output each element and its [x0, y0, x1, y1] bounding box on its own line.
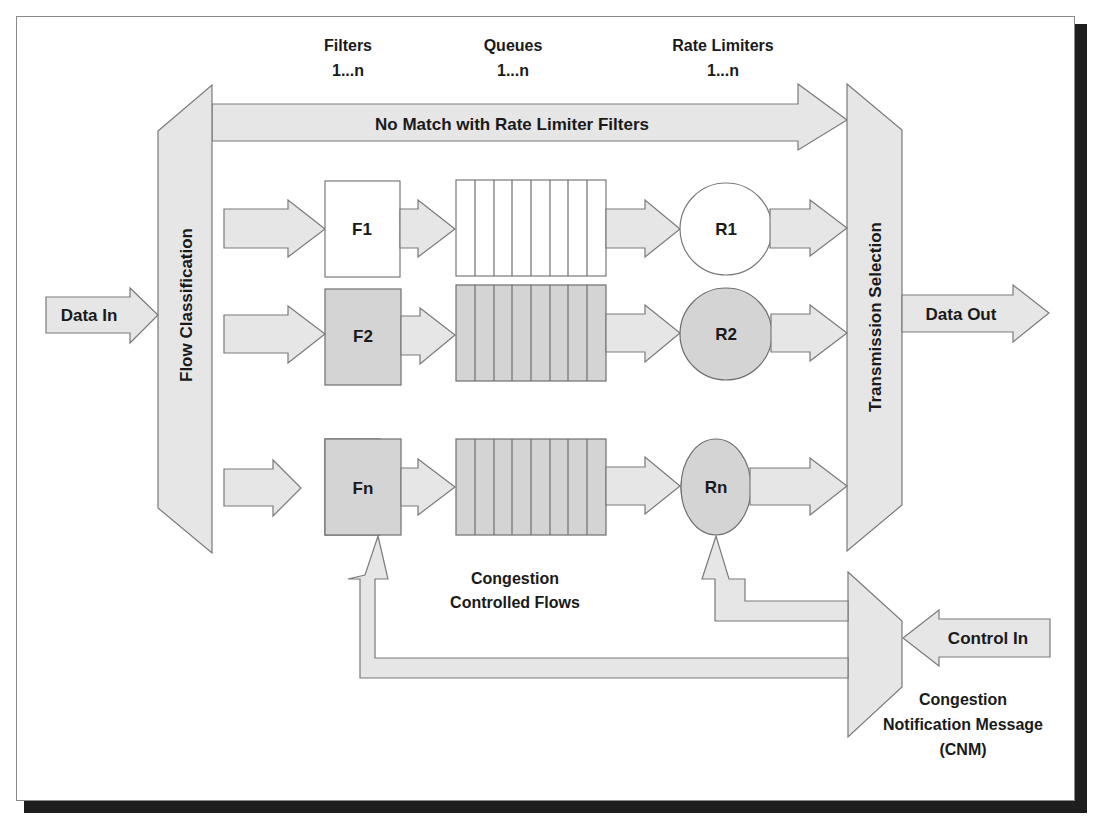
flow-row-1: F1 R1	[224, 180, 847, 277]
arrow-class-to-f2	[224, 306, 325, 363]
filter-fn-label: Fn	[353, 479, 374, 498]
arrow-class-to-fn	[224, 460, 301, 516]
header-rate-limiters-range: 1...n	[707, 62, 739, 79]
congestion-flows-label: Congestion Controlled Flows	[450, 570, 580, 611]
header-filters-range: 1...n	[332, 62, 364, 79]
header-queues-range: 1...n	[497, 62, 529, 79]
arrow-queue-to-r1	[606, 200, 680, 257]
congestion-flows-line2: Controlled Flows	[450, 594, 580, 611]
arrow-f2-to-queue	[401, 308, 455, 364]
cnm-label-line2: Notification Message	[883, 716, 1043, 733]
feedback-arrow-to-rn	[702, 536, 848, 621]
data-in-arrow: Data In	[46, 288, 158, 343]
flow-classification-label: Flow Classification	[177, 228, 196, 382]
arrow-r2-to-selection	[771, 305, 847, 361]
cnm-shape	[848, 572, 902, 737]
cnm-label-line3: (CNM)	[939, 741, 986, 758]
flow-row-n: Fn Rn	[224, 439, 847, 535]
flow-row-2: F2 R2	[224, 285, 847, 385]
no-match-arrow: No Match with Rate Limiter Filters	[212, 84, 847, 150]
control-in-arrow: Control In	[903, 610, 1050, 666]
rate-limiter-rn-label: Rn	[705, 478, 728, 497]
arrow-queue-to-rn	[606, 457, 680, 514]
arrow-f1-to-queue	[400, 200, 455, 257]
header-filters-title: Filters	[324, 37, 372, 54]
queue-2	[456, 285, 606, 381]
arrow-class-to-f1	[224, 200, 325, 257]
rate-limiter-r1-label: R1	[715, 220, 737, 239]
cnm-block	[848, 572, 902, 737]
header-filters: Filters 1...n	[324, 37, 372, 79]
data-out-label: Data Out	[926, 305, 997, 324]
arrow-fn-to-queue	[401, 459, 455, 515]
cnm-label: Congestion Notification Message (CNM)	[883, 691, 1043, 758]
filter-f2-label: F2	[353, 327, 373, 346]
cnm-label-line1: Congestion	[919, 691, 1007, 708]
flow-classification-block: Flow Classification	[158, 85, 212, 553]
rate-limiter-r2-label: R2	[715, 325, 737, 344]
no-match-label: No Match with Rate Limiter Filters	[375, 115, 649, 134]
filter-f1-label: F1	[352, 220, 372, 239]
header-queues-title: Queues	[484, 37, 543, 54]
arrow-queue-to-r2	[606, 305, 680, 362]
header-queues: Queues 1...n	[484, 37, 543, 79]
data-out-arrow: Data Out	[902, 285, 1049, 342]
arrow-rn-to-selection	[750, 458, 847, 515]
header-rate-limiters: Rate Limiters 1...n	[672, 37, 773, 79]
data-in-label: Data In	[61, 306, 118, 325]
flow-diagram: Filters 1...n Queues 1...n Rate Limiters…	[0, 0, 1099, 823]
control-in-label: Control In	[948, 629, 1028, 648]
transmission-selection-block: Transmission Selection	[847, 84, 902, 551]
transmission-selection-label: Transmission Selection	[866, 222, 885, 412]
queue-1	[456, 180, 606, 276]
arrow-r1-to-selection	[770, 200, 847, 256]
header-rate-limiters-title: Rate Limiters	[672, 37, 773, 54]
congestion-flows-line1: Congestion	[471, 570, 559, 587]
queue-n	[456, 439, 606, 535]
